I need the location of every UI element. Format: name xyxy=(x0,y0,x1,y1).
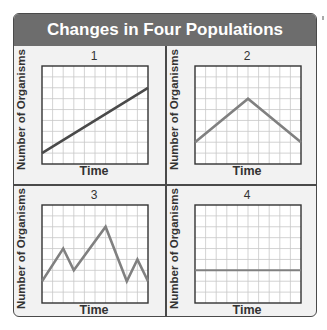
panel-number: 3 xyxy=(41,188,147,202)
panel-2: 2 Number of Organisms Time xyxy=(167,47,317,183)
x-axis-label: Time xyxy=(41,303,147,317)
x-axis-label: Time xyxy=(41,164,147,178)
graph-1 xyxy=(41,65,149,165)
graph-4 xyxy=(194,204,302,304)
panel-number: 1 xyxy=(41,49,147,63)
graph-2 xyxy=(194,65,302,165)
panel-number: 4 xyxy=(194,188,300,202)
y-axis-label: Number of Organisms xyxy=(15,193,29,309)
figure-frame: Changes in Four Populations 1 Number of … xyxy=(13,13,317,317)
x-axis-label: Time xyxy=(194,164,300,178)
y-axis-label: Number of Organisms xyxy=(15,54,29,170)
x-axis-label: Time xyxy=(194,303,300,317)
y-axis-label: Number of Organisms xyxy=(168,54,182,170)
panel-1: 1 Number of Organisms Time xyxy=(14,47,164,183)
figure-title: Changes in Four Populations xyxy=(14,14,316,46)
graph-3 xyxy=(41,204,149,304)
margin-mark xyxy=(322,16,324,20)
panel-4: 4 Number of Organisms Time xyxy=(167,186,317,317)
panel-3: 3 Number of Organisms Time xyxy=(14,186,164,317)
y-axis-label: Number of Organisms xyxy=(168,193,182,309)
panel-number: 2 xyxy=(194,49,300,63)
